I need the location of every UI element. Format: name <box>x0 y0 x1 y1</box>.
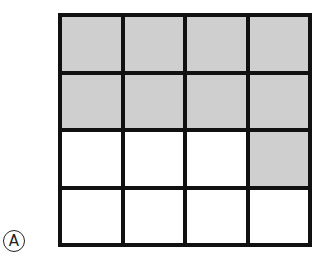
grid-cell-shaded <box>187 75 246 129</box>
option-label-circle: A <box>3 230 25 252</box>
grid-cell-shaded <box>187 17 246 71</box>
grid-cell-shaded <box>250 75 309 129</box>
grid-cell-empty <box>125 132 184 186</box>
grid-cell-shaded <box>125 17 184 71</box>
grid-cell-empty <box>62 132 121 186</box>
grid-cell-shaded <box>250 132 309 186</box>
grid-cell-shaded <box>62 17 121 71</box>
option-label: A <box>9 234 19 249</box>
grid-cell-shaded <box>125 75 184 129</box>
grid-cell-shaded <box>62 75 121 129</box>
fraction-grid <box>58 13 312 247</box>
grid-cell-shaded <box>250 17 309 71</box>
grid-cell-empty <box>62 190 121 244</box>
grid-cell-empty <box>187 190 246 244</box>
grid-cell-empty <box>250 190 309 244</box>
grid-cell-empty <box>187 132 246 186</box>
grid-cell-empty <box>125 190 184 244</box>
